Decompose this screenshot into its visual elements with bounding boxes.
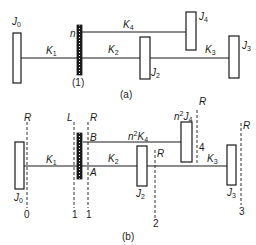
label-gear-index-a: (1) xyxy=(72,78,84,88)
label-ref-3: 3 xyxy=(239,207,245,217)
label-k1-a: K1 xyxy=(46,46,57,57)
gear-b xyxy=(77,133,82,179)
inertia-j3-a xyxy=(229,36,239,78)
label-ref-1a: 1 xyxy=(72,210,78,220)
label-ref-r1: R xyxy=(90,113,97,123)
label-ref-0: 0 xyxy=(24,210,30,220)
label-k4-a: K4 xyxy=(123,20,134,31)
label-j0-a: J0 xyxy=(12,17,21,28)
label-k2-b: K2 xyxy=(108,154,119,165)
label-j3-b: J3 xyxy=(227,188,236,199)
label-n2k4-b: n2K4 xyxy=(128,130,148,143)
label-j3-a: J3 xyxy=(242,41,251,52)
inertia-j4-a xyxy=(186,12,196,50)
label-ref-l1: L xyxy=(67,113,73,123)
diagram-canvas xyxy=(0,0,256,245)
inertia-j3-b xyxy=(227,145,236,185)
label-k2-a: K2 xyxy=(108,45,119,56)
label-ref-r4: R xyxy=(199,97,206,107)
inertia-j2-a xyxy=(140,37,150,79)
label-ref-2: 2 xyxy=(153,219,159,229)
label-point-a: A xyxy=(90,168,97,178)
label-k3-a: K3 xyxy=(205,45,216,56)
label-j2-b: J2 xyxy=(136,189,145,200)
label-k1-b: K1 xyxy=(46,155,57,166)
label-gear-n-a: n xyxy=(70,29,76,39)
label-ref-4: 4 xyxy=(199,143,205,153)
caption-a: (a) xyxy=(120,90,132,100)
label-j0-b: J0 xyxy=(14,193,23,204)
inertia-j0-b xyxy=(15,142,24,189)
label-point-b: B xyxy=(90,133,97,143)
label-ref-r2: R xyxy=(157,149,164,159)
label-ref-r0: R xyxy=(24,113,31,123)
inertia-j0-a xyxy=(13,33,21,83)
label-ref-1b: 1 xyxy=(86,210,92,220)
label-ref-r3: R xyxy=(243,121,250,131)
gear-a xyxy=(77,25,82,75)
inertia-j2-b xyxy=(137,146,147,186)
label-j4-a: J4 xyxy=(199,12,208,23)
inertia-n2j4-b xyxy=(181,122,192,162)
label-n2j4-b: n2J4 xyxy=(174,110,192,123)
label-j2-a: J2 xyxy=(151,68,160,79)
label-k3-b: K3 xyxy=(207,154,218,165)
caption-b: (b) xyxy=(122,232,134,242)
